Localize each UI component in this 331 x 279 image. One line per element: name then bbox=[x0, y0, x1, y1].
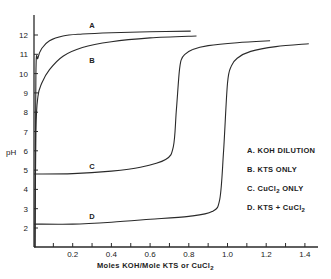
x-tick-label: 0.2 bbox=[67, 250, 79, 259]
legend-item: C. CuCl2 ONLY bbox=[247, 184, 304, 194]
legend-item: D. KTS + CuCl2 bbox=[247, 203, 306, 213]
x-axis-label-sub: 2 bbox=[210, 265, 214, 271]
y-tick-label: 5 bbox=[24, 166, 29, 175]
y-tick-label: 9 bbox=[24, 89, 29, 98]
legend-item: A. KOH DILUTION bbox=[247, 146, 315, 155]
x-tick-label: 0.6 bbox=[145, 250, 157, 259]
curve-label-a: A bbox=[89, 21, 95, 30]
y-tick-label: 6 bbox=[24, 147, 29, 156]
legend-item: B. KTS ONLY bbox=[247, 165, 297, 174]
curves bbox=[34, 31, 309, 247]
y-tick-label: 2 bbox=[24, 224, 29, 233]
x-tick-label: 1.4 bbox=[299, 250, 311, 259]
titration-chart: 23456789101112 0.20.40.60.81.01.21.4 pH … bbox=[0, 0, 331, 279]
x-tick-label: 1.0 bbox=[222, 250, 234, 259]
y-tick-label: 7 bbox=[24, 128, 29, 137]
y-tick-label: 3 bbox=[24, 205, 29, 214]
y-tick-label: 11 bbox=[20, 50, 29, 59]
x-axis-label-main: Moles KOH/Mole KTS or CuCl bbox=[97, 261, 210, 270]
y-axis-label: pH bbox=[6, 148, 16, 157]
curve-d bbox=[34, 44, 309, 225]
y-tick-label: 12 bbox=[19, 31, 28, 40]
legend: A. KOH DILUTIONB. KTS ONLYC. CuCl2 ONLYD… bbox=[247, 146, 315, 213]
x-tick-label: 0.8 bbox=[183, 250, 195, 259]
y-tick-label: 8 bbox=[24, 108, 29, 117]
y-tick-label: 4 bbox=[24, 185, 29, 194]
x-tick-label: 1.2 bbox=[261, 250, 273, 259]
curve-labels: ABCD bbox=[89, 21, 95, 221]
y-tick-label: 10 bbox=[19, 70, 28, 79]
curve-a bbox=[35, 31, 191, 247]
x-axis-label: Moles KOH/Mole KTS or CuCl2 bbox=[97, 261, 214, 271]
x-tick-label: 0.4 bbox=[106, 250, 118, 259]
curve-label-c: C bbox=[89, 162, 95, 171]
curve-label-b: B bbox=[89, 56, 95, 65]
x-ticks: 0.20.40.60.81.01.21.4 bbox=[53, 243, 311, 259]
curve-b bbox=[35, 36, 197, 247]
curve-label-d: D bbox=[89, 212, 95, 221]
